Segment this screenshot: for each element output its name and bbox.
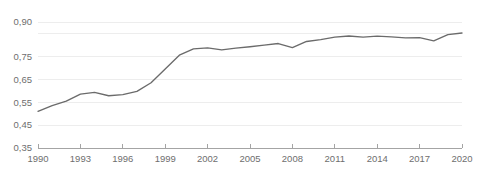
y-axis-tick-label: 0,90: [14, 16, 33, 27]
chart-canvas: 0,900,750,650,550,450,35 199019931996199…: [0, 0, 478, 180]
x-axis-tick-label: 1993: [70, 153, 91, 164]
x-axis-tick-label: 2005: [239, 153, 260, 164]
x-tick-marks-group: [38, 144, 462, 148]
line-chart: 0,900,750,650,550,450,35 199019931996199…: [0, 0, 478, 180]
x-axis-tick-label: 1990: [27, 153, 48, 164]
y-axis-tick-label: 0,75: [14, 51, 33, 62]
y-axis-labels-group: 0,900,750,650,550,450,35: [14, 16, 33, 153]
x-axis-tick-label: 2017: [409, 153, 430, 164]
x-axis-tick-label: 1996: [112, 153, 133, 164]
y-axis-tick-label: 0,45: [14, 119, 33, 130]
x-axis-tick-label: 2011: [325, 153, 345, 164]
x-axis-labels-group: 1990199319961999200220052008201120142017…: [27, 153, 472, 164]
x-axis-tick-label: 1999: [155, 153, 176, 164]
x-axis-tick-label: 2014: [367, 153, 388, 164]
x-axis-tick-label: 2020: [451, 153, 472, 164]
x-axis-tick-label: 2002: [197, 153, 218, 164]
y-axis-tick-label: 0,55: [14, 97, 33, 108]
x-axis-tick-label: 2008: [282, 153, 303, 164]
y-axis-tick-label: 0,65: [14, 74, 33, 85]
y-axis-tick-label: 0,35: [14, 142, 33, 153]
data-series-line: [38, 33, 462, 111]
